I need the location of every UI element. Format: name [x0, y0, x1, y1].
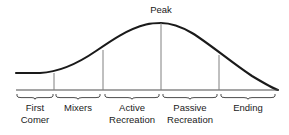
brace-first-comer	[17, 94, 53, 99]
brace-passive-recreation	[163, 94, 217, 99]
section-label-passive-recreation-line2: Recreation	[167, 114, 213, 125]
peak-label: Peak	[150, 4, 172, 15]
brace-ending	[221, 94, 275, 99]
energy-curve-chart: Peak First Comer Mixers Active Recreatio…	[0, 0, 289, 135]
brace-mixers	[56, 94, 100, 99]
section-label-mixers-line1: Mixers	[64, 102, 92, 113]
section-label-passive-recreation-line1: Passive	[173, 102, 206, 113]
section-label-active-recreation-line1: Active	[119, 102, 145, 113]
section-label-first-comer-line1: First	[26, 102, 45, 113]
section-label-active-recreation-line2: Recreation	[109, 114, 155, 125]
energy-curve-line	[16, 23, 278, 90]
energy-curve-diagram: Peak First Comer Mixers Active Recreatio…	[0, 0, 289, 135]
section-label-ending-line1: Ending	[233, 102, 263, 113]
section-label-first-comer-line2: Comer	[21, 114, 50, 125]
brace-active-recreation	[105, 94, 159, 99]
